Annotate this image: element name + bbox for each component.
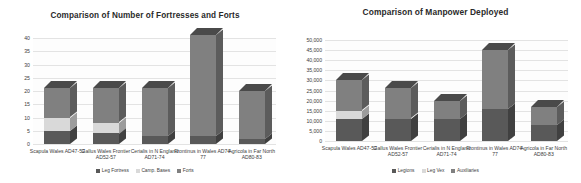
fortresses-chart-title: Comparison of Number of Fortresses and F… (0, 11, 290, 20)
y-axis-tick-label: 0 (27, 141, 30, 147)
bar-segment-front (482, 109, 508, 141)
bar-segment[interactable] (142, 136, 168, 144)
bar-segment-front (93, 88, 119, 122)
bar-segment[interactable] (239, 91, 265, 139)
bar-segment-front (385, 119, 411, 141)
y-axis-tick-label: 35,000 (306, 67, 322, 73)
bar-segment-front (44, 118, 70, 131)
bar-column[interactable] (239, 38, 265, 144)
legend-label: Forts (183, 168, 194, 173)
bar-segment[interactable] (482, 50, 508, 109)
bar-segment-side (216, 30, 223, 136)
legend-swatch (451, 169, 455, 173)
y-axis-tick-label: 10 (24, 115, 30, 121)
y-axis-tick-label: 15 (24, 101, 30, 107)
bar-segment-front (239, 91, 265, 139)
bar-segment-front (44, 131, 70, 144)
bar-column[interactable] (190, 38, 216, 144)
bar-segment[interactable] (44, 88, 70, 117)
bar-segment[interactable] (190, 136, 216, 144)
bar-segment-side (362, 75, 369, 111)
manpower-chart-title: Comparison of Manpower Deployed (290, 7, 581, 17)
manpower-legend: LegionsLeg VexAuxiliaries (290, 168, 581, 173)
bar-segment-front (190, 136, 216, 144)
bar-column[interactable] (385, 40, 411, 141)
bar-segment-front (531, 107, 557, 125)
legend-item[interactable]: Leg Fortress (96, 168, 129, 173)
bar-segment[interactable] (336, 119, 362, 141)
y-axis-tick-label: 40 (24, 35, 30, 41)
bar-segment-side (119, 83, 126, 123)
x-axis-category-label: Agricola in Far North AD80-83 (514, 145, 574, 157)
bar-segment[interactable] (385, 88, 411, 118)
bar-segment-side (508, 103, 515, 141)
fortresses-legend: Leg FortressCamp. BasesForts (0, 168, 290, 173)
y-axis-tick-label: 35 (24, 48, 30, 54)
bar-segment-front (482, 50, 508, 109)
bar-segment-front (44, 88, 70, 117)
manpower-plot-area: 50,00045,00040,00035,00030,00025,00020,0… (325, 40, 568, 141)
legend-label: Leg Vex (427, 168, 444, 173)
y-axis-tick-label: 5,000 (309, 128, 322, 134)
bar-column[interactable] (44, 38, 70, 144)
bar-segment[interactable] (336, 111, 362, 119)
bar-segment[interactable] (531, 125, 557, 141)
legend-label: Leg Fortress (102, 168, 129, 173)
bar-segment[interactable] (385, 119, 411, 141)
legend-swatch (392, 169, 396, 173)
bar-segment-front (336, 111, 362, 119)
legend-label: Legions (398, 168, 415, 173)
legend-swatch (177, 169, 181, 173)
legend-label: Camp. Bases (141, 168, 170, 173)
bar-segment[interactable] (336, 80, 362, 110)
bar-segment[interactable] (531, 107, 557, 125)
bar-column[interactable] (93, 38, 119, 144)
bar-segment[interactable] (434, 119, 460, 141)
y-axis-tick-label: 25,000 (306, 88, 322, 94)
bar-column[interactable] (434, 40, 460, 141)
bar-segment[interactable] (44, 131, 70, 144)
bar-column[interactable] (142, 38, 168, 144)
bar-column[interactable] (531, 40, 557, 141)
legend-swatch (422, 169, 426, 173)
legend-item[interactable]: Camp. Bases (136, 168, 170, 173)
bar-segment[interactable] (93, 133, 119, 144)
bar-segment-front (434, 101, 460, 119)
bar-segment-front (531, 125, 557, 141)
y-axis-tick-label: 50,000 (306, 37, 322, 43)
legend-item[interactable]: Auxiliaries (451, 168, 478, 173)
y-axis-tick-label: 0 (319, 138, 322, 144)
bar-segment-front (142, 136, 168, 144)
bar-segment-side (265, 86, 272, 139)
y-axis-tick-label: 10,000 (306, 118, 322, 124)
bar-segment[interactable] (93, 123, 119, 134)
bar-segment[interactable] (44, 118, 70, 131)
bar-segment[interactable] (190, 35, 216, 136)
bar-segment-side (168, 83, 175, 136)
fortresses-bars (33, 38, 276, 144)
bar-column[interactable] (482, 40, 508, 141)
x-axis-category-label: Agricola in Far North AD80-83 (222, 148, 282, 160)
bar-segment[interactable] (142, 88, 168, 136)
y-axis-tick-label: 30,000 (306, 77, 322, 83)
bar-column[interactable] (336, 40, 362, 141)
bar-segment[interactable] (93, 88, 119, 122)
y-axis-tick-label: 40,000 (306, 57, 322, 63)
legend-swatch (96, 169, 100, 173)
y-axis-tick-label: 30 (24, 62, 30, 68)
bar-segment[interactable] (482, 109, 508, 141)
legend-swatch (136, 169, 140, 173)
bar-segment-front (336, 80, 362, 110)
bar-segment[interactable] (434, 101, 460, 119)
bar-segment-front (385, 88, 411, 118)
legend-item[interactable]: Forts (177, 168, 194, 173)
bar-segment-front (336, 119, 362, 141)
bar-segment-front (434, 119, 460, 141)
y-axis-tick-label: 20,000 (306, 98, 322, 104)
bar-segment-side (411, 83, 418, 119)
bar-segment-front (93, 123, 119, 134)
y-axis-tick-label: 20 (24, 88, 30, 94)
legend-item[interactable]: Legions (392, 168, 414, 173)
legend-item[interactable]: Leg Vex (422, 168, 445, 173)
bar-segment[interactable] (239, 139, 265, 144)
